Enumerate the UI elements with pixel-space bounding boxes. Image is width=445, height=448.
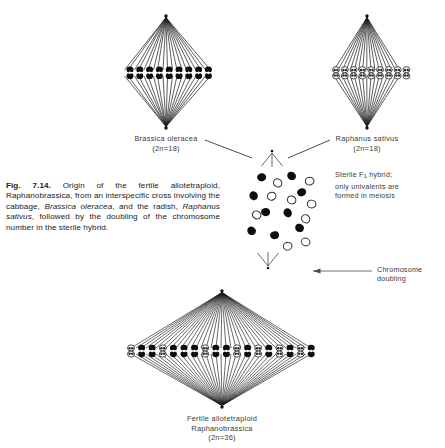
figure-caption: Fig. 7.14. Origin of the fertile allotet… [6,181,220,233]
allotetraploid-species-name: Raphanobrassica [152,424,292,434]
caption-species-brassica: Brassica oleracea [44,202,112,211]
allotetraploid-title: Fertile allotetraploid [152,414,292,424]
figure-number: Fig. 7.14. [6,181,51,190]
allotetraploid-chromosome-number: (2n=36) [152,433,292,443]
brassica-label: Brassica oleracea (2n=18) [96,134,236,153]
caption-part-3: , followed by the doubling of the chromo… [6,212,220,231]
allotetraploid-cell [128,289,315,408]
brassica-parent-cell [125,14,212,129]
brassica-bivalents [126,67,212,79]
chromosome-doubling-arrow [313,269,372,274]
chromosome-doubling-label: Chromosome doubling [377,265,422,284]
caption-part-2: , and the radish, [112,202,182,211]
raphanus-label: Raphanus sativus (2n=18) [300,134,434,153]
doubling-line-1: Chromosome [377,265,422,274]
allotetraploid-label: Fertile allotetraploid Raphanobrassica (… [152,414,292,443]
raphanus-bivalents [333,67,410,79]
sterile-hybrid-annotation: Sterile F1 hybrid; only univalents are f… [335,170,399,200]
sterile-hybrid-text-rest: hybrid; [367,170,392,179]
raphanus-species-name: Raphanus sativus [300,134,434,144]
sterile-hybrid-text: Sterile F [335,170,364,179]
sterile-hybrid-line-2: only univalents are [335,182,399,191]
brassica-chromosome-number: (2n=18) [96,144,236,154]
raphanus-parent-cell [333,14,410,129]
sterile-hybrid-line-3: formed in meiosis [335,191,399,200]
doubling-line-2: doubling [377,274,422,283]
raphanus-chromosome-number: (2n=18) [300,144,434,154]
brassica-species-name: Brassica oleracea [96,134,236,144]
sterile-hybrid-cell [246,150,317,270]
sterile-hybrid-line-1: Sterile F1 hybrid; [335,170,399,182]
figure-diagram: Fig. 7.14. Origin of the fertile allotet… [0,0,445,448]
